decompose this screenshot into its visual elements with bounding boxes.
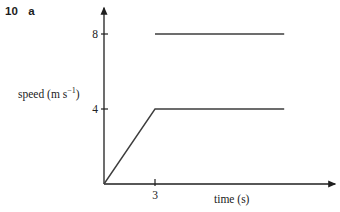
speed-time-chart: 483	[0, 0, 340, 212]
y-axis-label-base: speed (m s	[18, 88, 67, 100]
y-axis-label: speed (m s−1)	[18, 88, 80, 100]
series-accelerate-then-constant-line	[104, 109, 284, 184]
x-tick-label: 3	[152, 189, 158, 201]
y-axis-label-close: )	[76, 88, 80, 100]
y-tick-label: 8	[92, 28, 98, 40]
y-tick-label: 4	[92, 103, 98, 115]
x-axis-label: time (s)	[214, 193, 249, 205]
textbook-figure: 10a 483 speed (m s−1) time (s)	[0, 0, 340, 212]
x-axis-arrow-icon	[328, 181, 336, 188]
y-axis-label-superscript: −1	[67, 86, 76, 95]
y-axis-arrow-icon	[101, 7, 108, 15]
